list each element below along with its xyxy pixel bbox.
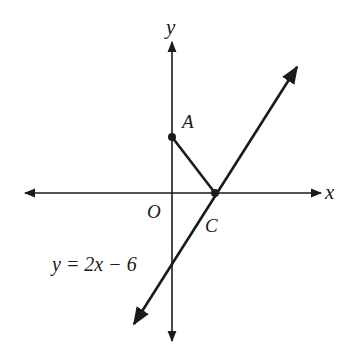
point-a-label: A [180, 111, 194, 132]
x-axis-label: x [324, 180, 335, 204]
segment-ac [172, 137, 215, 193]
point-c-label: C [205, 215, 218, 236]
line-equation-label: y = 2x − 6 [50, 253, 137, 276]
point-c [211, 189, 219, 197]
coordinate-diagram: y x O A C y = 2x − 6 [0, 0, 360, 361]
y-axis-label: y [164, 15, 176, 39]
origin-label: O [147, 201, 161, 222]
point-a [168, 133, 176, 141]
